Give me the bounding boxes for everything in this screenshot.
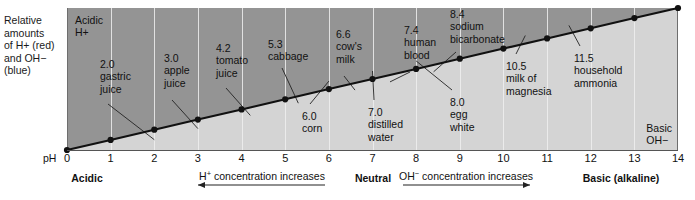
x-axis-line [67, 150, 678, 151]
tick-label-4: 4 [239, 152, 245, 164]
tick-label-2: 2 [151, 152, 157, 164]
point-label-ph-4.2: 4.2 tomato juice [216, 42, 264, 79]
gridline-ph-5 [285, 8, 286, 150]
tick-label-7: 7 [369, 152, 375, 164]
point-label-ph-7.4: 7.4 human blood [404, 24, 450, 61]
point-label-ph-10.5: 10.5 milk of magnesia [506, 60, 564, 97]
footer-neutral-label: Neutral [355, 172, 391, 184]
point-label-ph-6.6: 6.6 cow's milk [336, 28, 376, 65]
tick-label-9: 9 [457, 152, 463, 164]
tick-label-13: 13 [628, 152, 640, 164]
point-label-ph-7: 7.0 distilled water [368, 106, 416, 143]
point-label-ph-3: 3.0 apple juice [164, 52, 208, 89]
point-label-ph-6: 6.0 corn [302, 110, 342, 135]
acidic-corner-label: Acidic H+ [75, 14, 103, 38]
point-label-ph-2: 2.0 gastric juice [100, 58, 146, 95]
footer-acidic-label: Acidic [71, 172, 103, 184]
tick-label-5: 5 [282, 152, 288, 164]
ph-axis-tag: pH [43, 152, 56, 164]
ph-scale-figure: Relative amounts of H+ (red) and OH− (bl… [0, 0, 695, 200]
tick-label-11: 11 [541, 152, 552, 164]
tick-label-3: 3 [195, 152, 201, 164]
tick-label-12: 12 [585, 152, 597, 164]
tick-label-8: 8 [413, 152, 419, 164]
point-label-ph-8: 8.0 egg white [450, 96, 490, 133]
plot-right-border [677, 8, 678, 150]
tick-label-6: 6 [326, 152, 332, 164]
footer-basic-label: Basic (alkaline) [583, 172, 659, 184]
gridline-ph-2 [154, 8, 155, 150]
tick-label-10: 10 [497, 152, 509, 164]
oh-concentration-label: OH− concentration increases [399, 170, 533, 182]
h-concentration-label: H+ concentration increases [199, 170, 325, 182]
oh-concentration-arrow [403, 182, 530, 188]
tick-label-1: 1 [108, 152, 114, 164]
tick-label-0: 0 [64, 152, 70, 164]
h-concentration-arrow [198, 182, 325, 188]
plot-left-border [67, 8, 68, 150]
point-label-ph-8.4: 8.4 sodium bicarbonate [450, 8, 522, 45]
gridline-ph-4 [242, 8, 243, 150]
point-label-ph-5.3: 5.3 cabbage [268, 38, 320, 63]
y-axis-caption: Relative amounts of H+ (red) and OH− (bl… [4, 14, 66, 77]
basic-corner-label: Basic OH− [646, 122, 672, 146]
tick-label-14: 14 [672, 152, 684, 164]
point-label-ph-11.5: 11.5 household ammonia [574, 52, 636, 89]
